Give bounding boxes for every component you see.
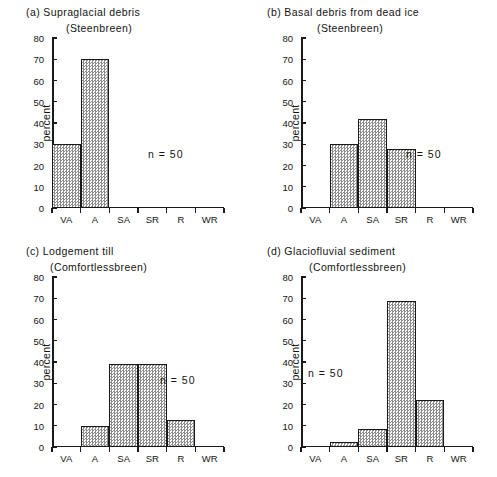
panel-b-plot-area: percent 01020304050607080 VAASASRRWR [301,38,473,208]
x-tick-mark [80,447,81,452]
x-tick-label-va: VA [309,215,321,225]
panel-c-n-annotation: n = 50 [160,374,196,386]
y-tick-label: 40 [282,358,293,368]
x-tick-mark [415,208,416,213]
y-tick-label: 50 [282,336,293,346]
y-tick-mark [301,298,306,299]
panel-d-subtitle: (Comfortlessbreen) [309,261,406,273]
y-tick-mark [301,340,306,341]
x-tick-mark [109,447,110,452]
bar-a [81,59,110,208]
x-tick-label-a: A [92,215,98,225]
y-tick-label: 60 [33,315,44,325]
x-tick-mark [223,447,224,452]
x-tick-label-sa: SA [366,454,379,464]
y-tick-label: 40 [33,119,44,129]
chart-panel-a: (a) Supraglacial debris (Steenbreen) per… [0,0,248,238]
y-tick-label: 50 [33,336,44,346]
x-tick-label-r: R [178,454,185,464]
y-tick-mark [301,37,306,38]
panel-c-title: (c) Lodgement till [26,245,114,257]
y-tick-mark [52,80,57,81]
x-tick-label-r: R [178,215,185,225]
x-tick-label-sa: SA [366,215,379,225]
y-tick-mark [52,446,57,447]
y-tick-label: 0 [288,204,293,214]
x-tick-mark [386,447,387,452]
y-tick-mark [52,276,57,277]
x-tick-mark [137,447,138,452]
y-tick-label: 0 [288,443,293,453]
panel-d-title: (d) Glaciofluvial sediment [267,245,395,257]
y-tick-mark [301,383,306,384]
x-tick-label-r: R [427,215,434,225]
x-tick-label-a: A [341,215,347,225]
y-tick-mark [52,122,57,123]
y-tick-mark [301,165,306,166]
x-tick-mark [329,447,330,452]
chart-panel-b: (b) Basal debris from dead ice (Steenbre… [249,0,497,238]
bar-sr [387,301,416,447]
x-tick-label-va: VA [309,454,321,464]
panel-b-subtitle: (Steenbreen) [317,22,383,34]
bar-r [416,400,445,447]
y-tick-label: 80 [282,273,293,283]
x-tick-mark [329,208,330,213]
y-tick-mark [301,186,306,187]
y-tick-label: 60 [282,315,293,325]
y-tick-mark [301,361,306,362]
y-tick-mark [301,101,306,102]
x-tick-label-wr: WR [202,215,218,225]
x-tick-mark [51,208,52,213]
x-tick-mark [51,447,52,452]
y-tick-mark [301,144,306,145]
y-tick-label: 70 [282,55,293,65]
x-tick-mark [166,447,167,452]
y-tick-mark [52,298,57,299]
y-tick-label: 80 [33,34,44,44]
y-tick-mark [52,319,57,320]
x-tick-mark [415,447,416,452]
y-tick-mark [301,446,306,447]
x-tick-label-wr: WR [451,454,467,464]
chart-panel-d: (d) Glaciofluvial sediment (Comfortlessb… [249,239,497,477]
y-tick-mark [52,425,57,426]
bar-va [52,144,81,208]
y-tick-mark [301,207,306,208]
x-tick-label-a: A [92,454,98,464]
y-tick-label: 30 [282,140,293,150]
y-tick-label: 60 [282,76,293,86]
x-tick-mark [472,447,473,452]
y-tick-mark [52,361,57,362]
y-tick-label: 20 [282,161,293,171]
y-tick-mark [52,340,57,341]
figure-multipanel-bar-charts: (a) Supraglacial debris (Steenbreen) per… [0,0,497,477]
x-tick-mark [386,208,387,213]
y-tick-mark [301,80,306,81]
y-tick-label: 30 [33,379,44,389]
x-tick-mark [300,208,301,213]
bar-a [330,442,359,447]
x-tick-label-sr: SR [395,215,408,225]
y-tick-label: 0 [39,204,44,214]
y-tick-label: 10 [33,421,44,431]
panel-d-plot-area: percent 01020304050607080 VAASASRRWR [301,277,473,447]
y-tick-mark [301,425,306,426]
x-tick-mark [195,208,196,213]
y-tick-label: 70 [33,294,44,304]
x-tick-mark [80,208,81,213]
y-tick-label: 60 [33,76,44,86]
y-tick-label: 20 [33,161,44,171]
bar-a [330,144,359,208]
y-tick-label: 0 [39,443,44,453]
y-tick-mark [52,37,57,38]
y-tick-mark [301,276,306,277]
y-tick-mark [52,404,57,405]
y-tick-mark [52,101,57,102]
panel-a-subtitle: (Steenbreen) [66,22,132,34]
y-tick-label: 10 [282,421,293,431]
panel-a-plot-area: percent 01020304050607080 VAASASRRWR [52,38,224,208]
y-tick-label: 50 [33,97,44,107]
panel-a-title: (a) Supraglacial debris [26,6,140,18]
y-tick-label: 10 [282,182,293,192]
